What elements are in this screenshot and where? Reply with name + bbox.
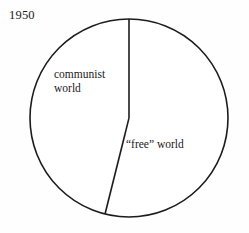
pie-chart-svg [0, 0, 249, 233]
slice-label-free-world: “free” world [126, 138, 184, 152]
slice-label-communist-world: communist world [54, 68, 105, 95]
year-label: 1950 [9, 8, 35, 23]
slice-label-communist-world-line2: world [54, 82, 105, 96]
slice-label-communist-world-line1: communist [54, 68, 105, 82]
pie-chart-figure: 1950 communist world “free” world [0, 0, 249, 233]
